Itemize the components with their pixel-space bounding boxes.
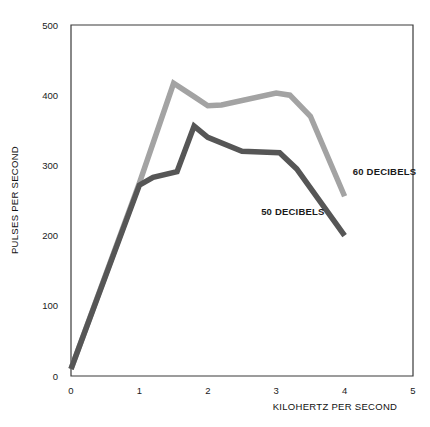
x-tick-label: 4 <box>342 385 347 396</box>
y-tick-label: 100 <box>42 300 58 311</box>
y-tick-label: 200 <box>42 230 58 241</box>
x-tick-label: 1 <box>137 385 142 396</box>
line-chart: 0100200300400500 012345 60 DECIBELS50 DE… <box>0 0 430 427</box>
x-tick-label: 0 <box>68 385 73 396</box>
chart-background <box>0 0 430 427</box>
y-tick-label: 500 <box>42 20 58 31</box>
y-axis-title: PULSES PER SECOND <box>9 146 20 254</box>
x-tick-label: 3 <box>274 385 279 396</box>
y-tick-label: 400 <box>42 90 58 101</box>
x-axis-title: KILOHERTZ PER SECOND <box>273 401 398 412</box>
chart-container: 0100200300400500 012345 60 DECIBELS50 DE… <box>0 0 430 427</box>
x-tick-label: 5 <box>410 385 415 396</box>
y-tick-label: 300 <box>42 160 58 171</box>
y-tick-label: 0 <box>53 371 58 382</box>
x-tick-label: 2 <box>205 385 210 396</box>
series-annotation: 60 DECIBELS <box>353 166 416 177</box>
series-annotation: 50 DECIBELS <box>261 206 324 217</box>
